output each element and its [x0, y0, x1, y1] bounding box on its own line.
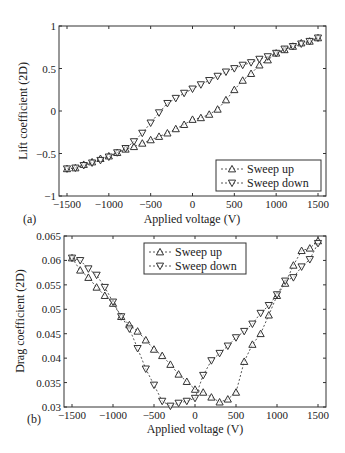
x-tick-label: 1000	[266, 409, 289, 421]
x-tick-label: 0	[190, 198, 196, 210]
legend-entry: Sweep up	[175, 245, 222, 259]
drag-plot-area: −1500−1000−5000500100015000.030.0350.040…	[36, 230, 329, 421]
y-tick-label: 0.055	[36, 279, 61, 291]
y-tick-label: 0.04	[42, 352, 62, 364]
x-tick-label: 0	[192, 409, 198, 421]
x-tick-label: −1500	[58, 409, 87, 421]
panel-label-b: (b)	[27, 412, 41, 426]
legend-entry: Sweep down	[247, 176, 309, 190]
lift-coefficient-chart: −1500−1000−500050010001500−1−0.500.51Swe…	[16, 20, 330, 226]
y-tick-label: 0.065	[36, 230, 61, 242]
legend-entry: Sweep down	[175, 259, 237, 273]
y-tick-label: 0.05	[42, 303, 62, 315]
x-tick-label: −1000	[99, 409, 128, 421]
legend: Sweep upSweep down	[144, 243, 246, 274]
drag-y-axis-title: Drag coefficient (2D)	[13, 269, 27, 373]
y-tick-label: −0.5	[36, 148, 56, 160]
x-tick-label: −1000	[95, 198, 124, 210]
y-tick-label: −1	[44, 190, 56, 202]
series-sweep-down	[63, 35, 321, 172]
x-tick-label: 1000	[265, 198, 288, 210]
lift-plot-area: −1500−1000−500050010001500−1−0.500.51Swe…	[36, 20, 329, 210]
lift-y-axis-title: Lift coefficient (2D)	[16, 62, 30, 160]
drag-x-axis-title: Applied voltage (V)	[147, 422, 244, 436]
x-tick-label: −1500	[53, 198, 82, 210]
series-sweep-up	[63, 34, 321, 171]
drag-coefficient-chart: −1500−1000−5000500100015000.030.0350.040…	[13, 230, 330, 436]
legend: Sweep upSweep down	[216, 160, 321, 191]
x-tick-label: 1500	[307, 198, 330, 210]
lift-x-axis-title: Applied voltage (V)	[144, 212, 241, 226]
x-tick-label: 1500	[307, 409, 330, 421]
y-tick-label: 0.03	[42, 401, 62, 413]
x-tick-label: 500	[228, 409, 245, 421]
x-tick-label: −500	[143, 409, 166, 421]
y-tick-label: 0.045	[36, 328, 61, 340]
y-tick-label: 1	[51, 20, 57, 32]
y-tick-label: 0.06	[42, 254, 62, 266]
figure: −1500−1000−500050010001500−1−0.500.51Swe…	[0, 0, 345, 453]
y-tick-label: 0	[51, 105, 57, 117]
x-tick-label: −500	[139, 198, 162, 210]
legend-entry: Sweep up	[247, 162, 294, 176]
x-tick-label: 500	[226, 198, 243, 210]
panel-label-a: (a)	[23, 212, 36, 226]
y-tick-label: 0.5	[42, 63, 56, 75]
y-tick-label: 0.035	[36, 377, 61, 389]
